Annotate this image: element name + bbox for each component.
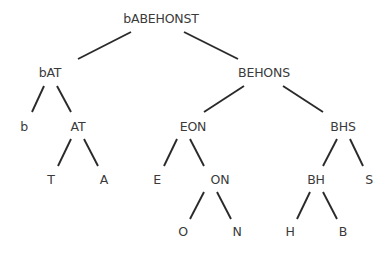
edge-root-BEHONS	[184, 32, 238, 59]
edge-BH-B	[323, 192, 337, 219]
tree-diagram: bABEHONSTbATBEHONSbATEONBHSTAEONBHSONHB	[0, 0, 390, 253]
node-b: b	[20, 121, 28, 134]
edge-BEHONS-EON	[204, 86, 244, 112]
node-S: S	[365, 174, 373, 187]
node-BH: BH	[307, 174, 325, 187]
node-BHS: BHS	[330, 121, 355, 134]
node-N: N	[232, 226, 241, 239]
node-bAT: bAT	[39, 67, 62, 80]
edge-bAT-b	[32, 86, 44, 112]
node-O: O	[178, 226, 188, 239]
node-root: bABEHONST	[123, 13, 198, 26]
edge-BHS-BH	[323, 139, 337, 166]
edge-BEHONS-BHS	[283, 86, 323, 112]
edge-AT-T	[58, 139, 71, 166]
node-ON: ON	[211, 174, 230, 187]
edge-EON-E	[164, 139, 177, 166]
edge-bAT-AT	[57, 86, 71, 112]
edge-ON-N	[217, 192, 231, 219]
edge-root-bAT	[78, 32, 131, 59]
node-BEHONS: BEHONS	[238, 67, 290, 80]
node-B: B	[339, 226, 347, 239]
node-T: T	[47, 174, 54, 187]
node-AT: AT	[71, 121, 86, 134]
node-H: H	[285, 226, 294, 239]
edge-AT-A	[84, 139, 98, 166]
node-EON: EON	[180, 121, 207, 134]
edge-BH-H	[297, 192, 310, 219]
node-A: A	[100, 174, 108, 187]
edge-BHS-S	[350, 139, 363, 166]
edge-ON-O	[190, 192, 204, 219]
edge-EON-ON	[190, 139, 204, 166]
node-E: E	[153, 174, 161, 187]
